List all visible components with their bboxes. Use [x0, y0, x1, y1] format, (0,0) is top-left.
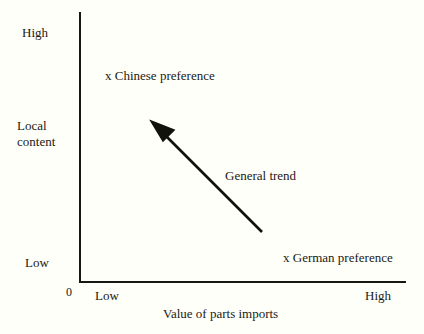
data-point-german-preference: x German preference: [283, 250, 393, 265]
chart-figure: High Local content Low 0 Low High Value …: [0, 0, 424, 334]
x-axis-title: Value of parts imports: [163, 306, 278, 321]
general-trend-arrow-icon: [0, 0, 424, 334]
general-trend-label: General trend: [225, 168, 296, 183]
y-axis-title: Local content: [17, 118, 55, 150]
y-axis-title-line1: Local: [17, 118, 55, 134]
data-point-chinese-preference: x Chinese preference: [105, 68, 215, 83]
y-axis-tick-label-low: Low: [25, 255, 49, 270]
y-axis-title-line2: content: [17, 134, 55, 150]
y-axis-tick-label-high: High: [22, 25, 48, 40]
origin-label: 0: [66, 285, 72, 300]
x-axis-line: [79, 281, 406, 283]
x-axis-tick-label-high: High: [365, 288, 391, 303]
x-axis-tick-label-low: Low: [95, 288, 119, 303]
y-axis-line: [79, 12, 81, 283]
